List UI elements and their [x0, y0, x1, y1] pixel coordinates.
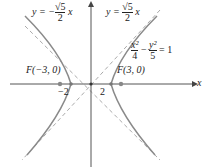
- vertex-right-label: 2: [100, 86, 105, 97]
- hyperbola-plot: [0, 0, 203, 167]
- equation-label: x²4 − y²5 = 1: [131, 40, 172, 61]
- hyperbola-right-branch: [111, 16, 157, 155]
- focus-right-point: [119, 82, 123, 86]
- x-axis-label: x: [197, 77, 201, 88]
- asymptote-neg-label: y = −√52 x: [32, 2, 72, 23]
- focus-left-label: F(−3, 0): [26, 64, 61, 75]
- vertex-right-point: [109, 82, 113, 86]
- origin-point: [89, 82, 92, 85]
- asymptote-pos-label: y = √52 x: [106, 2, 140, 23]
- y-axis-arrow-icon: [88, 1, 94, 7]
- vertex-left-point: [69, 82, 73, 86]
- focus-right-label: F(3, 0): [117, 64, 145, 75]
- vertex-left-label: −2: [58, 86, 69, 97]
